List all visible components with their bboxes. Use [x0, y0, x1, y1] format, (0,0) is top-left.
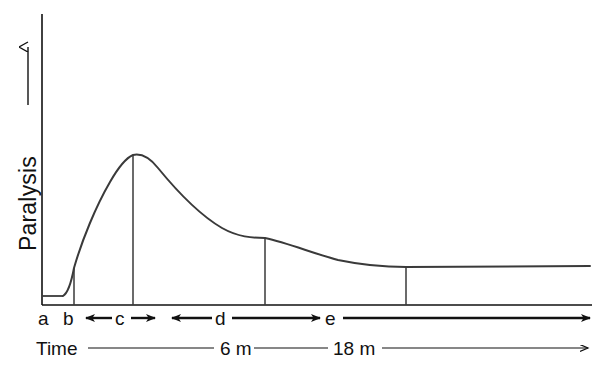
time-axis-title: Time	[36, 339, 78, 358]
phase-label-b: b	[63, 309, 74, 328]
phase-label-e: e	[325, 309, 336, 328]
duration-label-18m: 18 m	[333, 339, 375, 358]
phase-label-a: a	[38, 309, 49, 328]
y-axis-title: Paralysis	[15, 114, 42, 294]
paralysis-time-graph: Paralysis a b c d e Time 6 m 18 m	[0, 0, 605, 377]
chart-canvas	[0, 0, 605, 377]
phase-label-c: c	[115, 309, 125, 328]
phase-label-d: d	[215, 309, 226, 328]
duration-label-6m: 6 m	[220, 339, 252, 358]
paralysis-curve	[63, 155, 590, 296]
